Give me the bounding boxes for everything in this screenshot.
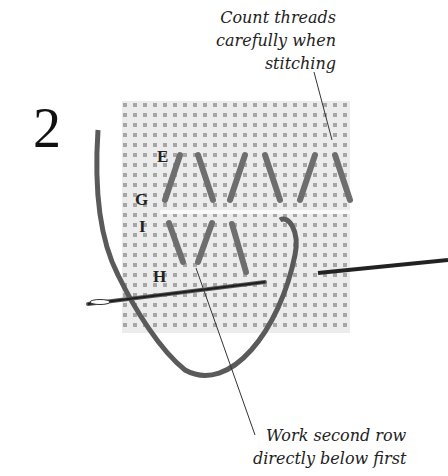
- caption-top-line: carefully when: [216, 29, 336, 52]
- point-label-g: G: [135, 190, 148, 210]
- caption-top: Count threads carefully when stitching: [216, 6, 336, 75]
- caption-bottom: Work second row directly below first: [253, 424, 406, 470]
- point-label-h: H: [153, 267, 166, 287]
- caption-bottom-line: Work second row: [253, 424, 406, 447]
- point-label-e: E: [157, 147, 168, 167]
- step-number: 2: [33, 100, 61, 156]
- caption-bottom-line: directly below first: [253, 447, 406, 470]
- caption-top-line: stitching: [216, 52, 336, 75]
- point-label-i: I: [139, 217, 146, 237]
- canvas-fabric: [122, 101, 350, 333]
- caption-top-line: Count threads: [216, 6, 336, 29]
